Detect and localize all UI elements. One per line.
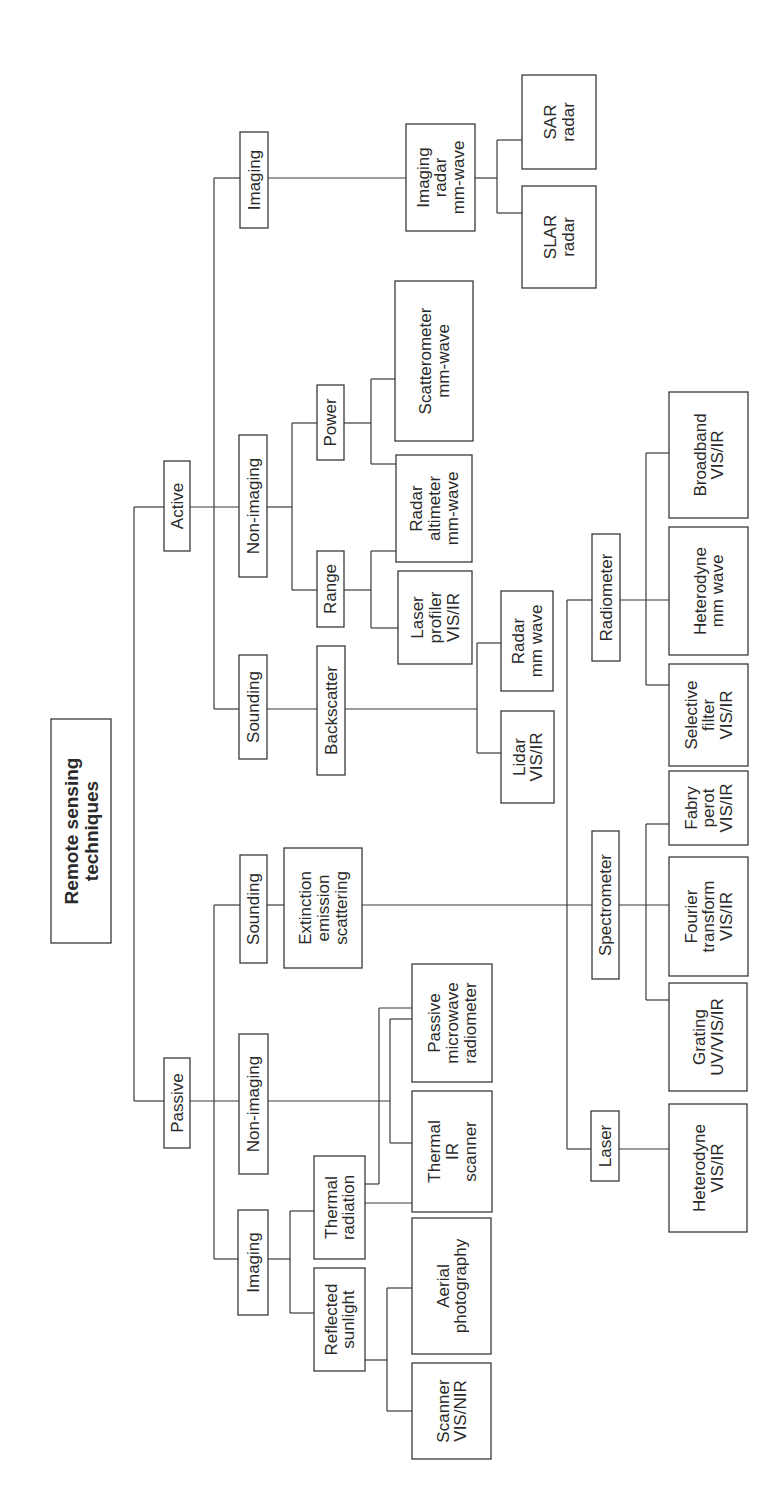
node-label: Power <box>321 398 340 447</box>
node-label-line: VIS/IR <box>717 892 736 941</box>
node-label-line: Active <box>168 483 187 529</box>
node-label-line: Broadband <box>691 413 710 496</box>
node-extinction: Extinctionemissionscattering <box>284 848 362 968</box>
node-label-line: radar <box>559 217 578 257</box>
node-label-line: VIS/NIR <box>451 1380 470 1441</box>
node-heterodyne-visir: HeterodyneVIS/IR <box>669 1104 747 1232</box>
node-label-line: profiler <box>426 591 445 643</box>
node-passive-microwave: Passivemicrowaveradiometer <box>412 964 492 1082</box>
node-label-line: mm-wave <box>434 324 453 398</box>
node-label-line: radar <box>431 157 450 197</box>
node-lidar: LidarVIS/IR <box>501 711 554 803</box>
node-label-line: radiometer <box>461 982 480 1064</box>
node-fabry-perot: FabryperotVIS/IR <box>669 771 748 845</box>
node-passive-nonimaging: Non-imaging <box>239 1034 268 1174</box>
node-label-line: Thermal <box>322 1176 341 1238</box>
node-label-line: Laser <box>408 596 427 639</box>
node-label-line: Extinction <box>296 871 315 945</box>
node-label-line: photography <box>451 1238 470 1333</box>
node-range: Range <box>317 551 344 627</box>
node-label-line: SAR <box>541 105 560 140</box>
node-label-line: transform <box>699 881 718 953</box>
node-active-nonimaging: Non-imaging <box>239 435 267 577</box>
node-label-line: mm wave <box>527 605 546 678</box>
node-label-line: scattering <box>332 871 351 945</box>
node-radiometer: Radiometer <box>592 534 620 661</box>
node-label-line: mm-wave <box>449 141 468 215</box>
node-aerial-photography: Aerialphotography <box>412 1218 491 1354</box>
node-label-line: Lidar <box>510 738 529 776</box>
node-root: Remote sensingtechniques <box>51 719 111 943</box>
node-label-line: Remote sensing <box>61 758 82 905</box>
node-label-line: perot <box>699 788 718 827</box>
node-label-line: sunlight <box>339 1290 358 1349</box>
node-label: Spectrometer <box>596 854 615 956</box>
node-label: Radiometer <box>597 553 616 641</box>
node-label-line: Sounding <box>244 873 263 945</box>
node-label: GratingUV/VIS/IR <box>690 998 727 1075</box>
node-label-line: emission <box>314 874 333 941</box>
node-label: Sounding <box>244 873 263 945</box>
node-active-sounding: Sounding <box>239 655 267 759</box>
node-label-line: Range <box>321 564 340 614</box>
node-label-line: Passive <box>425 993 444 1053</box>
node-scanner-visnir: ScannerVIS/NIR <box>412 1363 491 1459</box>
remote-sensing-tree-diagram: Remote sensingtechniquesActivePassiveIma… <box>0 0 778 1496</box>
node-label: Thermalradiation <box>322 1175 359 1240</box>
node-broadband: BroadbandVIS/IR <box>669 392 748 518</box>
node-label-line: Fourier <box>682 889 701 943</box>
node-passive: Passive <box>164 1058 190 1148</box>
node-label-line: Radar <box>509 618 528 665</box>
node-label-line: Imaging <box>245 150 264 210</box>
node-label-line: Radar <box>407 485 426 532</box>
node-selective-filter: SelectivefilterVIS/IR <box>669 664 748 766</box>
node-passive-sounding: Sounding <box>240 855 267 963</box>
node-label: Non-imaging <box>244 1056 263 1152</box>
node-slar-radar: SLARradar <box>522 186 596 288</box>
node-label-line: VIS/IR <box>708 430 727 479</box>
node-label-line: altimeter <box>425 476 444 542</box>
node-thermal-radiation: Thermalradiation <box>314 1156 365 1259</box>
node-label: Passivemicrowaveradiometer <box>425 982 480 1064</box>
node-label: Backscatter <box>322 666 341 755</box>
node-label-line: Power <box>321 398 340 447</box>
node-sar-radar: SARradar <box>522 75 596 169</box>
node-grating: GratingUV/VIS/IR <box>669 983 747 1091</box>
node-label-line: Imaging <box>244 1232 263 1292</box>
node-label: LaserprofilerVIS/IR <box>408 591 463 643</box>
node-label-line: Fabry <box>682 786 701 830</box>
node-label-line: scanner <box>461 1121 480 1182</box>
node-label-line: Non-imaging <box>244 1056 263 1152</box>
node-label: LidarVIS/IR <box>510 732 547 781</box>
node-spectrometer: Spectrometer <box>592 831 619 979</box>
node-label-line: SLAR <box>541 215 560 259</box>
node-heterodyne-mm: Heterodynemm wave <box>669 527 748 655</box>
node-label-line: mm wave <box>708 555 727 628</box>
node-label-line: Selective <box>682 681 701 750</box>
node-active-imaging: Imaging <box>240 132 268 228</box>
node-label-line: Reflected <box>322 1284 341 1356</box>
node-label-line: radiation <box>339 1175 358 1240</box>
node-label-line: microwave <box>443 982 462 1063</box>
node-imaging-radar: Imagingradarmm-wave <box>406 124 475 231</box>
node-label: Reflectedsunlight <box>322 1284 359 1356</box>
node-label: FabryperotVIS/IR <box>682 783 737 832</box>
node-label: SARradar <box>541 102 578 142</box>
diagram-nodes: Remote sensingtechniquesActivePassiveIma… <box>51 75 748 1459</box>
node-label-line: Passive <box>168 1073 187 1133</box>
node-label: Imaging <box>244 1232 263 1292</box>
node-label: SLARradar <box>541 215 578 259</box>
node-label-line: Laser <box>596 1124 615 1167</box>
node-label-line: Scatterometer <box>416 307 435 414</box>
node-label: Heterodynemm wave <box>691 547 728 635</box>
node-label-line: Non-imaging <box>244 458 263 554</box>
node-label-line: Heterodyne <box>691 547 710 635</box>
node-label-line: VIS/IR <box>444 593 463 642</box>
node-label-line: Imaging <box>414 147 433 207</box>
node-label: Passive <box>168 1073 187 1133</box>
node-label: Range <box>321 564 340 614</box>
node-label-line: VIS/IR <box>708 1143 727 1192</box>
node-label: Active <box>168 483 187 529</box>
node-label-line: Grating <box>690 1009 709 1065</box>
node-label: Sounding <box>244 671 263 743</box>
